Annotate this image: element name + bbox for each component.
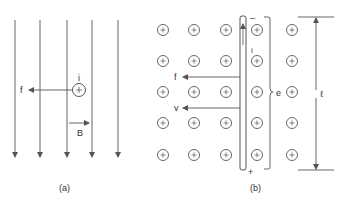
field-label: B — [77, 128, 83, 138]
field-into-page-icon — [221, 87, 232, 98]
length-dimension — [298, 17, 334, 170]
field-into-page-icon — [189, 87, 200, 98]
field-into-page-icon — [189, 118, 200, 129]
force-label: f — [20, 85, 23, 95]
field-into-page-icon — [158, 25, 169, 36]
field-into-page-icon — [252, 56, 263, 67]
field-into-page-icon — [287, 25, 298, 36]
caption-b: (b) — [250, 183, 261, 193]
field-into-page-icon — [158, 150, 169, 161]
field-into-page-icon — [287, 87, 298, 98]
current-element-icon — [73, 84, 86, 97]
rod-bottom-polarity: + — [248, 167, 253, 177]
rod-top-polarity: – — [250, 13, 255, 23]
length-label: ℓ — [320, 89, 324, 99]
field-into-page-icon — [221, 150, 232, 161]
field-into-page-icon — [221, 56, 232, 67]
diagram-canvas: i f B (a) i – + e f v — [0, 0, 345, 205]
conducting-rod — [240, 16, 246, 170]
field-into-page-icon — [252, 150, 263, 161]
field-into-page-icon — [158, 118, 169, 129]
velocity-label: v — [174, 103, 179, 113]
field-into-page-icon — [252, 87, 263, 98]
panel-b: i – + e f v ℓ (b) — [158, 13, 335, 193]
rod-current-label: i — [251, 46, 253, 55]
magnetic-field-lines — [15, 20, 118, 157]
caption-a: (a) — [59, 183, 70, 193]
field-into-page-icon — [287, 56, 298, 67]
field-into-page-icon — [189, 25, 200, 36]
emf-label: e — [276, 88, 281, 98]
force-label-b: f — [174, 72, 177, 82]
current-label: i — [78, 73, 80, 83]
field-into-page-icon — [158, 56, 169, 67]
field-into-page-icon — [189, 56, 200, 67]
emf-bracket — [264, 17, 273, 169]
field-into-page-icon — [221, 118, 232, 129]
panel-a: i f B (a) — [15, 20, 118, 193]
field-into-page-icon — [221, 25, 232, 36]
field-into-page-icon — [189, 150, 200, 161]
field-into-page-icon — [158, 87, 169, 98]
field-into-page-icon — [252, 118, 263, 129]
field-into-page-icon — [287, 118, 298, 129]
field-into-page-icon — [287, 150, 298, 161]
field-into-page-icon — [252, 25, 263, 36]
